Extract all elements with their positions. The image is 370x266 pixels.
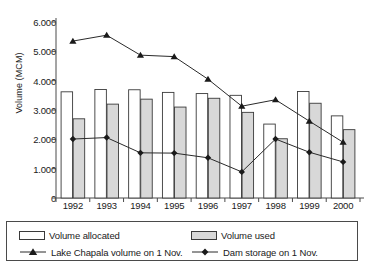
marker-triangle: [137, 52, 144, 58]
legend-item-volume-allocated: Volume allocated: [19, 227, 120, 243]
x-axis-tick-label: 1998: [265, 200, 285, 211]
x-axis-tick-label: 2000: [333, 200, 353, 211]
bar-volume-allocated: [162, 92, 174, 198]
chart-canvas: [0, 0, 370, 212]
x-axis-tick-label: 1995: [164, 200, 184, 211]
plot-area: Volume (MCM) 01.0002.0003.0004.0005.0006…: [0, 0, 370, 212]
bar-volume-used: [73, 119, 85, 198]
bar-volume-allocated: [230, 95, 242, 198]
legend-label-dam-storage: Dam storage on 1 Nov.: [223, 247, 318, 258]
x-axis-tick-label: 1994: [130, 200, 150, 211]
legend-item-dam-storage: Dam storage on 1 Nov.: [191, 244, 318, 260]
bar-volume-allocated: [129, 90, 141, 198]
bar-volume-used: [310, 103, 322, 198]
bar-volume-allocated: [298, 92, 310, 198]
bar-volume-allocated: [95, 89, 107, 198]
bar-volume-used: [242, 112, 254, 198]
legend-item-lake-chapala: Lake Chapala volume on 1 Nov.: [19, 244, 183, 260]
bar-volume-used: [208, 98, 220, 198]
x-axis-tick-label: 1993: [96, 200, 116, 211]
bar-volume-used: [276, 139, 288, 198]
bar-volume-allocated: [264, 124, 276, 198]
x-axis-tick-label: 1997: [232, 200, 252, 211]
marker-triangle: [103, 32, 110, 38]
marker-triangle: [272, 96, 279, 102]
marker-triangle: [204, 76, 211, 82]
chart-legend: Volume allocated Volume used Lake Chapal…: [6, 221, 358, 261]
x-axis-tick-label: 1992: [63, 200, 83, 211]
legend-swatch-filled-bar-icon: [191, 231, 217, 240]
bar-volume-used: [141, 99, 153, 198]
bar-volume-used: [343, 130, 355, 198]
legend-item-volume-used: Volume used: [191, 227, 275, 243]
x-axis-tick-label: 1999: [299, 200, 319, 211]
bar-volume-allocated: [331, 116, 343, 198]
legend-triangle-line-icon: [19, 247, 47, 257]
legend-label-volume-allocated: Volume allocated: [49, 230, 120, 241]
legend-swatch-open-bar-icon: [19, 231, 45, 240]
legend-label-volume-used: Volume used: [221, 230, 275, 241]
x-axis-tick-label: 1996: [198, 200, 218, 211]
bar-volume-allocated: [61, 92, 72, 198]
chart-figure: Volume (MCM) 01.0002.0003.0004.0005.0006…: [0, 0, 370, 266]
bar-volume-used: [107, 104, 119, 198]
legend-label-lake-chapala: Lake Chapala volume on 1 Nov.: [51, 247, 183, 258]
x-axis-tick-labels: 199219931994199519961997199819992000: [0, 200, 370, 214]
bar-volume-allocated: [196, 94, 208, 198]
legend-diamond-line-icon: [191, 247, 219, 257]
